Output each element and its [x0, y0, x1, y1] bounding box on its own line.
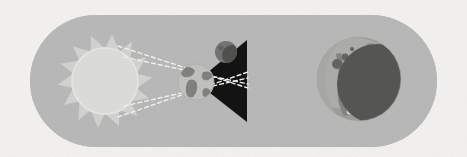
- grain-overlay: [0, 0, 467, 157]
- lunar-eclipse-illustration: [0, 0, 467, 157]
- illustration-canvas: Lunar Eclipse Diagram Sun rays cast Eart…: [0, 0, 467, 157]
